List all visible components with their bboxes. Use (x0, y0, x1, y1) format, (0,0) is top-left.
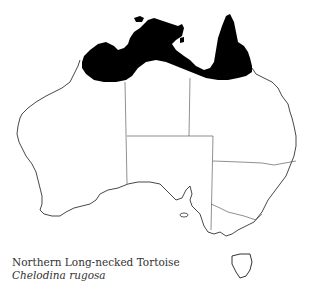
groote-eylandt (180, 37, 184, 43)
map-caption: Northern Long-necked Tortoise Chelodina … (12, 256, 180, 282)
tasmania-outline (232, 254, 252, 278)
australia-map (0, 0, 313, 292)
mainland-outline (17, 60, 296, 236)
scientific-name: Chelodina rugosa (12, 269, 180, 282)
kangaroo-island (180, 213, 188, 217)
state-borders (125, 78, 296, 230)
species-range (82, 14, 252, 82)
melville-island (134, 16, 144, 22)
common-name: Northern Long-necked Tortoise (12, 256, 180, 269)
